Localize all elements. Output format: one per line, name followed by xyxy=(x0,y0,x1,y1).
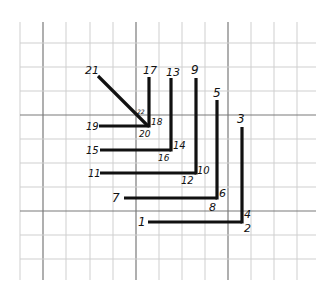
label-16: 16 xyxy=(158,153,170,163)
label-22: 22 xyxy=(137,108,145,115)
label-6: 6 xyxy=(219,187,226,200)
label-9: 9 xyxy=(191,63,199,77)
label-15: 15 xyxy=(86,145,99,156)
label-10: 10 xyxy=(197,165,210,176)
background xyxy=(0,0,331,294)
label-8: 8 xyxy=(209,201,216,214)
label-4: 4 xyxy=(244,208,251,221)
label-5: 5 xyxy=(213,86,221,100)
label-11: 11 xyxy=(88,168,101,179)
label-20: 20 xyxy=(139,129,151,139)
label-12: 12 xyxy=(181,175,194,186)
label-3: 3 xyxy=(237,112,245,126)
label-14: 14 xyxy=(173,140,186,151)
label-7: 7 xyxy=(112,191,120,205)
label-18: 18 xyxy=(151,117,163,127)
label-1: 1 xyxy=(138,215,146,229)
spiral-diagram: 12345678910111213141516171819202122 xyxy=(0,0,331,294)
label-13: 13 xyxy=(166,66,180,79)
label-2: 2 xyxy=(244,222,251,235)
label-19: 19 xyxy=(86,121,99,132)
label-17: 17 xyxy=(143,64,157,77)
label-21: 21 xyxy=(85,64,99,77)
